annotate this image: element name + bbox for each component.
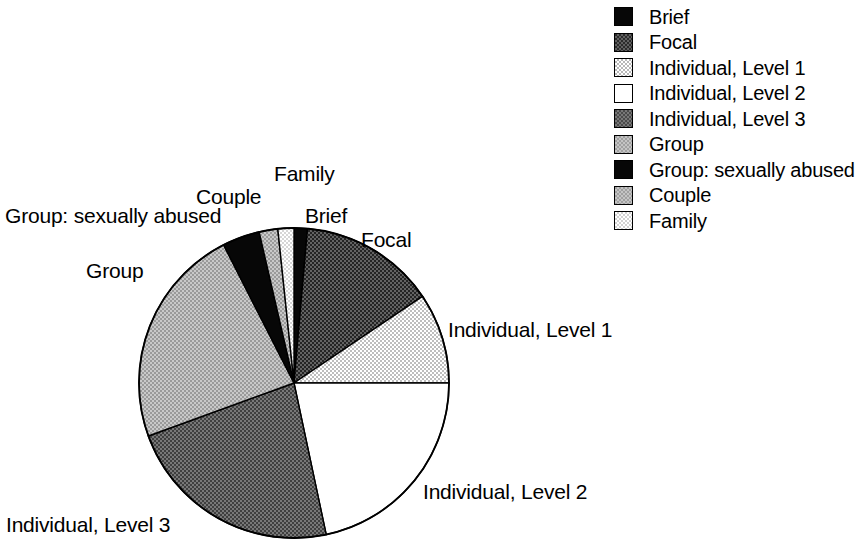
legend-item-label: Group: sexually abused <box>649 160 855 180</box>
legend-item[interactable]: Brief <box>614 4 864 30</box>
legend-item-label: Individual, Level 2 <box>649 83 805 103</box>
chart-legend: BriefFocalIndividual, Level 1Individual,… <box>614 4 864 234</box>
legend-item[interactable]: Individual, Level 2 <box>614 81 864 107</box>
legend-swatch-icon <box>614 186 633 205</box>
pie-label-focal: Focal <box>361 229 411 251</box>
legend-item-label: Family <box>649 211 707 231</box>
legend-item[interactable]: Focal <box>614 30 864 56</box>
pie-label-individual-level-1: Individual, Level 1 <box>448 319 612 341</box>
legend-item-label: Group <box>649 134 704 154</box>
pie-label-family: Family <box>274 163 335 185</box>
pie-slice-group <box>139 228 449 538</box>
legend-item[interactable]: Family <box>614 208 864 234</box>
pie-label-group: Group <box>86 260 143 282</box>
legend-item-label: Individual, Level 3 <box>649 109 805 129</box>
pie-chart-area: Family Couple Brief Group: sexually abus… <box>0 0 600 541</box>
legend-swatch-icon <box>614 7 633 26</box>
legend-swatch-icon <box>614 211 633 230</box>
pie-label-individual-level-2: Individual, Level 2 <box>423 481 587 503</box>
legend-item[interactable]: Individual, Level 1 <box>614 55 864 81</box>
legend-item-label: Focal <box>649 32 697 52</box>
pie-chart-figure: Family Couple Brief Group: sexually abus… <box>0 0 864 541</box>
legend-item[interactable]: Group: sexually abused <box>614 157 864 183</box>
legend-item-label: Brief <box>649 7 689 27</box>
legend-item-label: Couple <box>649 185 711 205</box>
legend-item-label: Individual, Level 1 <box>649 58 805 78</box>
legend-swatch-icon <box>614 109 633 128</box>
pie-label-brief: Brief <box>305 205 347 227</box>
pie-label-group-sexually-abused: Group: sexually abused <box>5 205 221 227</box>
legend-swatch-icon <box>614 135 633 154</box>
legend-item[interactable]: Couple <box>614 183 864 209</box>
legend-swatch-icon <box>614 160 633 179</box>
legend-item[interactable]: Individual, Level 3 <box>614 106 864 132</box>
legend-swatch-icon <box>614 58 633 77</box>
legend-swatch-icon <box>614 84 633 103</box>
pie-label-individual-level-3: Individual, Level 3 <box>6 514 170 536</box>
legend-item[interactable]: Group <box>614 132 864 158</box>
legend-swatch-icon <box>614 33 633 52</box>
